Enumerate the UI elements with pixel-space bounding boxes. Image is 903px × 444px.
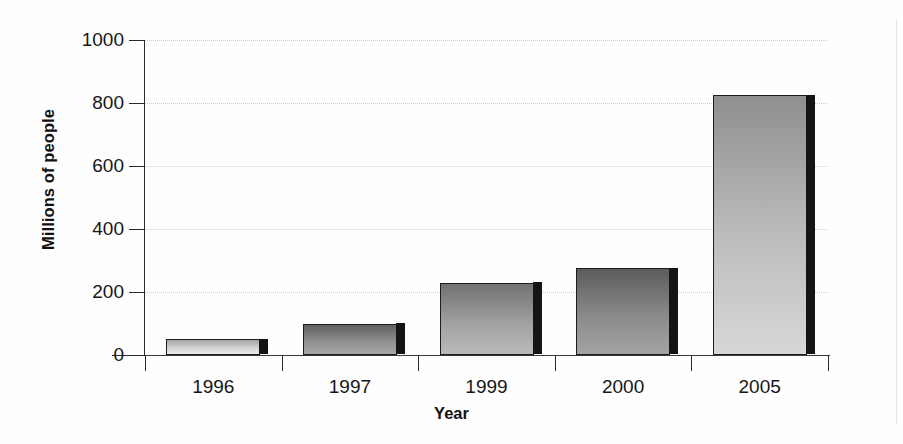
gridline (145, 355, 828, 356)
y-tick-label: 800 (40, 93, 124, 112)
gridline (145, 40, 828, 41)
y-tick-mark (129, 229, 144, 230)
x-tick-mark (282, 355, 283, 371)
y-tick-mark (129, 103, 144, 104)
x-tick-label-1999: 1999 (427, 376, 547, 398)
bar-shadow (806, 95, 815, 354)
x-tick-mark (691, 355, 692, 371)
y-tick-label: 0 (40, 345, 124, 364)
bar-2005 (713, 95, 807, 355)
x-tick-mark (145, 355, 146, 371)
y-tick-label: 1000 (40, 30, 124, 49)
y-tick-label: 600 (40, 156, 124, 175)
page-edge-line (896, 20, 897, 424)
y-tick-label: 200 (40, 282, 124, 301)
y-tick-mark (129, 355, 144, 356)
bar-1996 (166, 339, 260, 355)
x-axis-title: Year (0, 404, 903, 423)
y-tick-mark (129, 292, 144, 293)
x-tick-label-2000: 2000 (563, 376, 683, 398)
y-tick-label: 400 (40, 219, 124, 238)
bar-1997 (303, 324, 397, 356)
x-tick-label-1997: 1997 (290, 376, 410, 398)
x-tick-mark (828, 355, 829, 371)
x-tick-mark (555, 355, 556, 371)
bar-shadow (396, 323, 405, 354)
x-tick-label-1996: 1996 (153, 376, 273, 398)
bar-1999 (440, 283, 534, 355)
bar-shadow (533, 282, 542, 354)
x-tick-mark (418, 355, 419, 371)
x-tick-label-2005: 2005 (700, 376, 820, 398)
bar-shadow (669, 268, 678, 354)
y-tick-mark (129, 166, 144, 167)
bar-chart-figure: Millions of people 02004006008001000 199… (0, 0, 903, 444)
bar-2000 (576, 268, 670, 355)
y-tick-mark (129, 40, 144, 41)
plot-area (145, 40, 828, 355)
bar-shadow (259, 339, 268, 354)
